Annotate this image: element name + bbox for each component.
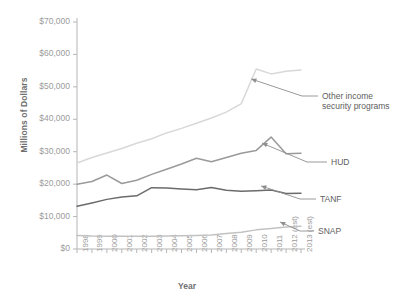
line-chart: Millions of Dollars Year $70,000$60,000$…	[0, 0, 405, 301]
callout-leaders	[251, 78, 327, 231]
series-label-tanf: TANF	[320, 194, 342, 204]
data-series	[77, 69, 301, 236]
series-label-hud: HUD	[331, 157, 349, 167]
series-label-other-income: Other income security programs	[322, 91, 390, 111]
plot-area	[0, 0, 405, 301]
series-label-snap: SNAP	[318, 226, 341, 236]
axes	[73, 18, 305, 253]
